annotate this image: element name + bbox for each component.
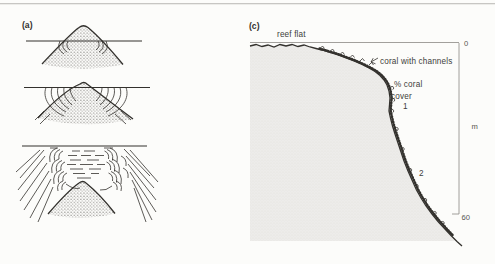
reef-flat-label: reef flat	[277, 30, 306, 39]
volcano-stage-2-barrier-reef	[24, 83, 150, 125]
site-marker-2: 2	[419, 169, 424, 178]
panel-a-label: (a)	[22, 20, 33, 30]
coral-with-channels-label: coral with channels	[380, 57, 452, 66]
panel-a-subsidence-sequence: (a)	[16, 20, 158, 222]
reef-formation-figure: (a)	[0, 0, 495, 264]
depth-axis-unit-label: m	[472, 122, 478, 131]
volcano-stage-1-fringing-reef	[26, 26, 142, 69]
panel-c-reef-profile: (c) 0 m 60 reef flat coral with channels…	[249, 21, 478, 246]
site-marker-1: 1	[403, 102, 408, 111]
depth-axis-60-label: 60	[462, 213, 470, 222]
coral-cover-label-line1: % coral	[394, 80, 422, 89]
coral-cover-label-line2: cover	[391, 92, 412, 101]
depth-axis-0-label: 0	[464, 39, 468, 48]
reef-body-fill	[250, 45, 455, 242]
panel-c-label: (c)	[249, 21, 260, 31]
depth-axis: 0 m 60	[452, 39, 478, 222]
page-top-rule	[0, 3, 495, 4]
volcano-stage-3-atoll	[16, 146, 158, 222]
textbook-figure-page: (a)	[0, 0, 495, 264]
